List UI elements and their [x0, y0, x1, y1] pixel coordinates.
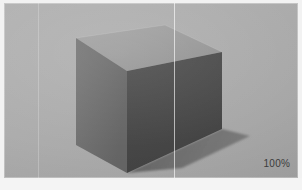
zoom-level-label[interactable]: 100%	[264, 158, 290, 169]
scene-canvas[interactable]	[4, 3, 298, 178]
guide-line-center	[174, 3, 175, 178]
guide-line-left	[38, 3, 39, 178]
app-window: 100%	[0, 0, 302, 190]
status-strip	[0, 178, 302, 190]
3d-viewport[interactable]: 100%	[4, 3, 298, 178]
